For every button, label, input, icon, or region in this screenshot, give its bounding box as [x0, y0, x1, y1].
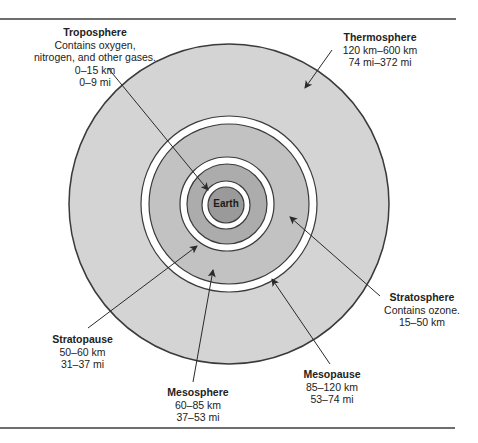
thermosphere-mi: 74 mi–372 mi — [330, 56, 430, 69]
troposphere-mi: 0–9 mi — [20, 76, 170, 89]
stratopause-label: Stratopause 50–60 km 31–37 mi — [40, 333, 125, 371]
thermosphere-km: 120 km–600 km — [330, 44, 430, 57]
stratosphere-label: Stratosphere Contains ozone. 15–50 km — [372, 291, 472, 329]
mesopause-mi: 53–74 mi — [292, 393, 372, 406]
mesopause-km: 85–120 km — [292, 381, 372, 394]
earth-label: Earth — [206, 198, 246, 209]
mesosphere-title: Mesosphere — [158, 386, 238, 399]
mesosphere-km: 60–85 km — [158, 399, 238, 412]
stratosphere-km: 15–50 km — [372, 316, 472, 329]
troposphere-desc-2: nitrogen, and other gases. — [20, 51, 170, 64]
mesopause-label: Mesopause 85–120 km 53–74 mi — [292, 368, 372, 406]
troposphere-km: 0–15 km — [20, 64, 170, 77]
stratopause-mi: 31–37 mi — [40, 358, 125, 371]
stratosphere-desc: Contains ozone. — [372, 304, 472, 317]
stratopause-title: Stratopause — [40, 333, 125, 346]
stratosphere-title: Stratosphere — [372, 291, 472, 304]
mesopause-title: Mesopause — [292, 368, 372, 381]
troposphere-label: Troposphere Contains oxygen, nitrogen, a… — [20, 26, 170, 89]
thermosphere-title: Thermosphere — [330, 31, 430, 44]
troposphere-desc-1: Contains oxygen, — [20, 39, 170, 52]
stratopause-km: 50–60 km — [40, 346, 125, 359]
mesosphere-mi: 37–53 mi — [158, 411, 238, 424]
mesosphere-label: Mesosphere 60–85 km 37–53 mi — [158, 386, 238, 424]
thermosphere-label: Thermosphere 120 km–600 km 74 mi–372 mi — [330, 31, 430, 69]
troposphere-title: Troposphere — [20, 26, 170, 39]
